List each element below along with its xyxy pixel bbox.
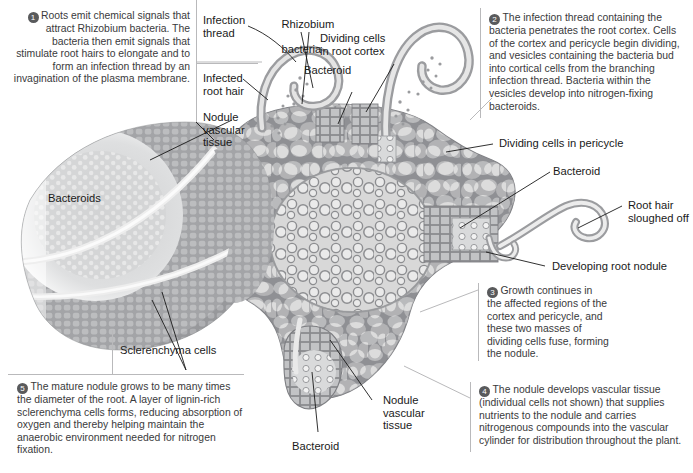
label-bacteroid-bottom: Bacteroid <box>292 440 339 453</box>
label-infection-thread: Infection thread <box>203 14 245 39</box>
label-nodule-vascular-tissue-left: Nodule vascular tissue <box>203 111 245 149</box>
divider-vertical-text4 <box>470 382 471 452</box>
divider-vertical-bottom-left <box>112 330 113 375</box>
figure-canvas: 1Roots emit chemical signals that attrac… <box>0 0 693 473</box>
divider-vertical-text3 <box>478 283 479 361</box>
step-text-1: 1Roots emit chemical signals that attrac… <box>8 10 190 86</box>
step-text-3: 3Growth continues in the affected region… <box>487 285 609 361</box>
divider-vertical-top-left <box>196 0 197 122</box>
label-developing-root-nodule: Developing root nodule <box>552 260 667 273</box>
label-dividing-cells-pericycle: Dividing cells in pericycle <box>499 137 623 150</box>
step-text-2: 2The infection thread containing the bac… <box>489 12 687 113</box>
divider-vertical-text2 <box>480 8 481 118</box>
step-badge-5: 5 <box>17 383 28 394</box>
divider-horizontal-upper <box>196 63 258 64</box>
step-body-2: The infection thread containing the bact… <box>489 12 680 112</box>
step-body-5: The mature nodule grows to be many times… <box>17 381 242 455</box>
step-text-5: 5The mature nodule grows to be many time… <box>17 381 244 457</box>
label-root-hair-sloughed-off: Root hair sloughed off <box>628 199 689 224</box>
step-body-1: Roots emit chemical signals that attract… <box>14 10 190 84</box>
label-sclerenchyma-cells: Sclerenchyma cells <box>120 344 216 357</box>
label-rhizobium-rest: bacteria <box>281 43 321 55</box>
label-bacteroid-right: Bacteroid <box>553 165 600 178</box>
label-dividing-cells-root-cortex: Dividing cells in root cortex <box>320 32 385 57</box>
label-rhizobium-italic: Rhizobium <box>281 18 334 30</box>
label-infected-root-hair: Infected root hair <box>203 72 244 97</box>
label-bacteroids-left: Bacteroids <box>48 192 101 205</box>
step-badge-2: 2 <box>489 14 500 25</box>
divider-horizontal-bottom-left <box>8 374 244 375</box>
dividing-cells-pericycle-block <box>424 206 498 262</box>
step-body-3: Growth continues in the affected regions… <box>487 285 609 359</box>
step-body-4: The nodule develops vascular tissue (ind… <box>479 384 681 446</box>
step-text-4: 4The nodule develops vascular tissue (in… <box>479 384 685 447</box>
vascular-cylinder <box>270 168 434 312</box>
label-bacteroid-top: Bacteroid <box>304 64 351 77</box>
step-badge-1: 1 <box>28 12 39 23</box>
step-badge-3: 3 <box>487 287 498 298</box>
step-badge-4: 4 <box>479 386 490 397</box>
label-nodule-vascular-tissue-bottom: Nodule vascular tissue <box>383 394 425 432</box>
